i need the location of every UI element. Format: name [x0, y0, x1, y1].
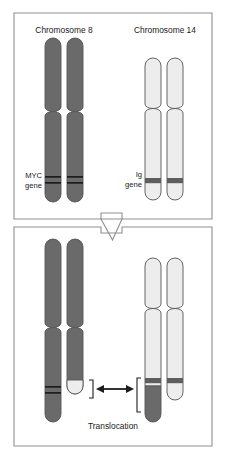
chromosome-14-derivative	[145, 258, 161, 422]
ig-gene-label-line2: gene	[125, 180, 142, 189]
chromosome-14-title: Chromosome 14	[134, 25, 196, 35]
myc-gene-label-line1: MYC	[25, 171, 42, 180]
chromosome-14-homolog-a	[145, 58, 161, 200]
translocated-myc-segment	[145, 386, 161, 422]
chromosome-8-homolog-a	[45, 239, 61, 422]
chromosome-8-homolog-a	[45, 38, 61, 202]
chromosome-8-title: Chromosome 8	[35, 25, 93, 35]
ig-gene-band	[167, 178, 183, 183]
ig-gene-label-line1: Ig	[136, 170, 142, 179]
translocation-caption: Translocation	[88, 421, 138, 431]
chromosome-8-homolog-b	[67, 38, 83, 202]
ig-gene-band	[167, 378, 183, 383]
figure-canvas: Chromosome 8 Chromosome 14 MYC gene Ig g…	[0, 0, 227, 459]
ig-gene-band	[145, 178, 161, 183]
chromosome-14-homolog-b	[167, 58, 183, 200]
chromosome-8-derivative	[67, 239, 83, 394]
ig-gene-band	[145, 378, 161, 383]
chromosome-14-homolog-b	[167, 258, 183, 400]
myc-gene-label-line2: gene	[25, 181, 42, 190]
